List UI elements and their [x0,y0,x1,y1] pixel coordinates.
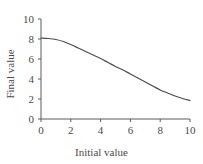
data-line-series-0 [41,38,190,101]
x-tick-label: 6 [128,125,134,136]
chart-figure: 0246810 0246810 Initial value Final valu… [0,0,203,164]
y-axis-title: Final value [4,34,16,114]
x-tick-label: 0 [38,125,44,136]
y-tick-label: 0 [8,114,34,125]
axis-spines [41,19,190,119]
x-axis-title: Initial value [0,146,203,158]
x-tick-label: 10 [185,125,196,136]
y-tick-label: 10 [8,14,34,25]
x-tick-label: 8 [157,125,163,136]
x-tick-label: 4 [98,125,104,136]
x-tick-label: 2 [68,125,74,136]
